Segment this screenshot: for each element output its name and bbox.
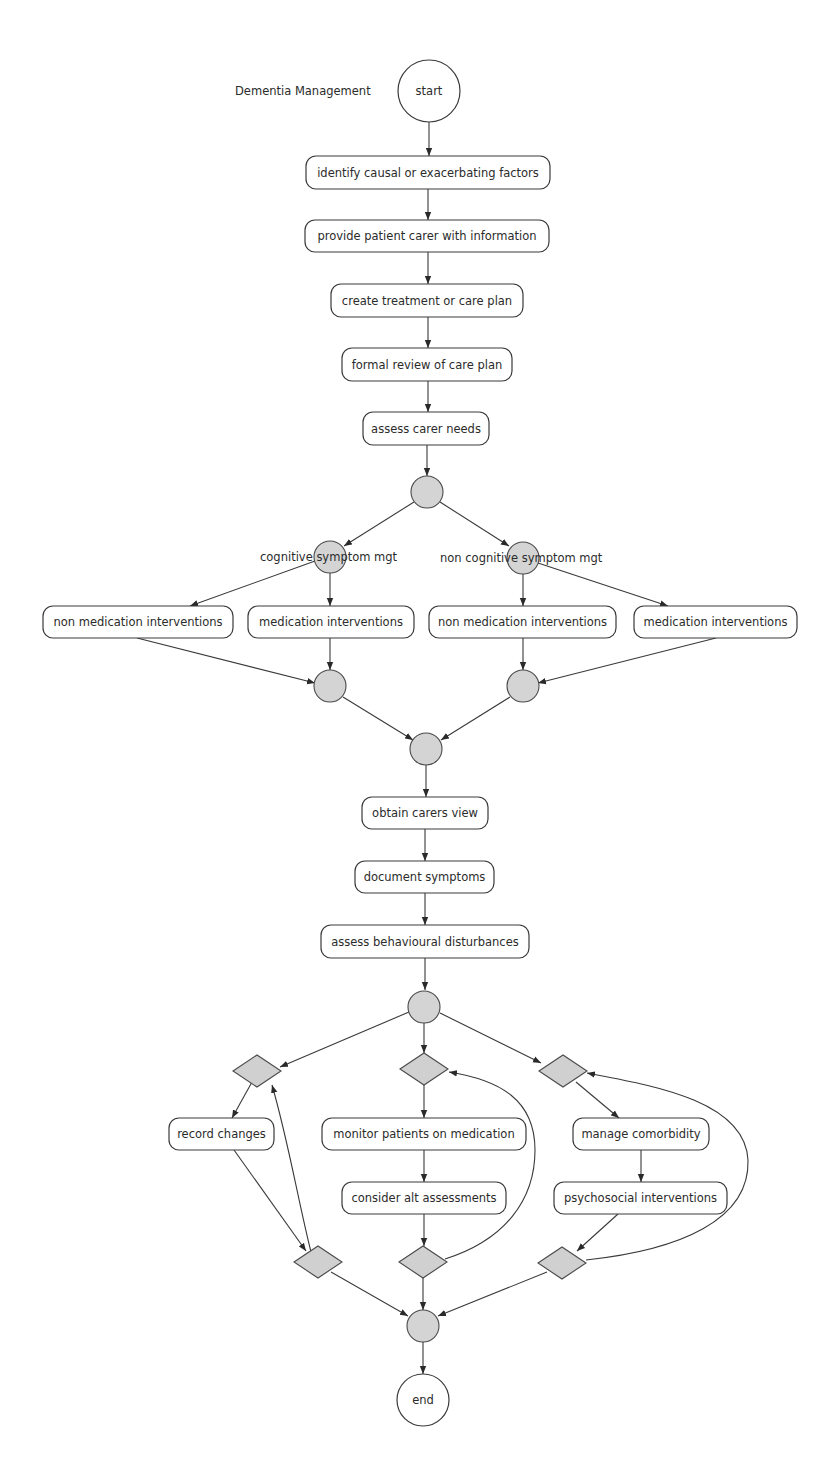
activity-provide-information: provide patient carer with information: [305, 220, 549, 252]
diagram-title: Dementia Management: [235, 84, 371, 98]
edge-fork2-dleft: [280, 1012, 409, 1067]
edge-dright2-dright-loop: [586, 1073, 748, 1260]
edge-noncog-med: [538, 563, 668, 606]
activity-assess-carer-needs: assess carer needs: [363, 412, 489, 445]
fork2-gateway: [408, 991, 440, 1023]
activity-create-care-plan: create treatment or care plan: [331, 284, 523, 317]
edge-nonmed-cogjoin: [137, 638, 315, 683]
activity-label: non medication interventions: [438, 615, 607, 629]
edge-dright2-end-gate: [438, 1272, 547, 1316]
activity-identify-factors: identify causal or exacerbating factors: [306, 156, 550, 189]
edge-dright-manage: [576, 1082, 619, 1118]
edge-cogjoin-join: [343, 697, 413, 740]
activity-label: non medication interventions: [53, 615, 222, 629]
decision-left-top: [233, 1055, 281, 1087]
noncognitive-branch-label: non cognitive symptom mgt: [440, 551, 603, 565]
activity-label: assess behavioural disturbances: [331, 935, 518, 949]
decision-right-top: [539, 1055, 587, 1087]
cognitive-join-gateway: [314, 670, 346, 702]
end-node: end: [397, 1374, 449, 1426]
cognitive-branch-label: cognitive symptom mgt: [260, 550, 398, 564]
activity-label: assess carer needs: [371, 422, 481, 436]
fork-gateway: [411, 476, 443, 508]
activity-assess-behavioural-disturbances: assess behavioural disturbances: [321, 925, 529, 958]
activity-monitor-patients: monitor patients on medication: [322, 1118, 526, 1150]
decision-right-bottom: [538, 1247, 586, 1279]
end-join-gateway: [407, 1310, 439, 1342]
activity-label: formal review of care plan: [352, 358, 503, 372]
activity-noncognitive-medication: medication interventions: [634, 606, 797, 638]
activity-label: medication interventions: [259, 615, 403, 629]
activity-cognitive-non-medication: non medication interventions: [43, 606, 233, 638]
edge-fork-noncognitive: [440, 502, 509, 546]
edge-cog-nonmed: [190, 561, 315, 606]
edge-psycho-dright2: [577, 1214, 618, 1251]
edge-dmid2-dmid-loop: [445, 1072, 535, 1259]
activity-label: psychosocial interventions: [564, 1191, 717, 1205]
activity-label: create treatment or care plan: [342, 294, 512, 308]
activity-obtain-carers-view: obtain carers view: [362, 797, 488, 829]
start-node: start: [398, 60, 460, 122]
activity-label: document symptoms: [364, 870, 486, 884]
activity-label: consider alt assessments: [351, 1191, 496, 1205]
start-label: start: [416, 84, 443, 98]
activity-label: provide patient carer with information: [317, 229, 536, 243]
activity-psychosocial-interventions: psychosocial interventions: [554, 1182, 727, 1214]
activity-label: monitor patients on medication: [333, 1127, 514, 1141]
activity-label: manage comorbidity: [581, 1127, 700, 1141]
activity-noncognitive-non-medication: non medication interventions: [429, 606, 616, 638]
activity-formal-review: formal review of care plan: [342, 348, 512, 381]
decision-left-bottom: [294, 1246, 342, 1278]
activity-document-symptoms: document symptoms: [355, 861, 494, 893]
activity-diagram: Dementia Management: [0, 0, 829, 1471]
edge-med-noncogjoin: [538, 638, 716, 683]
activity-label: record changes: [177, 1127, 266, 1141]
activity-consider-alt-assessments: consider alt assessments: [342, 1182, 506, 1214]
decision-middle-top: [400, 1053, 448, 1085]
activity-manage-comorbidity: manage comorbidity: [573, 1118, 709, 1150]
edge-dleft-record: [232, 1082, 252, 1118]
edge-dleft2-end-gate: [331, 1272, 408, 1316]
end-label: end: [412, 1393, 434, 1407]
activity-label: medication interventions: [644, 615, 788, 629]
join-gateway: [410, 733, 442, 765]
activity-label: obtain carers view: [372, 806, 478, 820]
activity-record-changes: record changes: [169, 1118, 274, 1150]
edge-fork-cognitive: [344, 502, 414, 546]
edge-noncogjoin-join: [441, 697, 510, 740]
activity-label: identify causal or exacerbating factors: [317, 166, 539, 180]
activity-cognitive-medication: medication interventions: [248, 606, 414, 638]
edge-fork2-dright: [440, 1013, 541, 1063]
edge-record-dleft2: [234, 1150, 306, 1251]
edge-dleft2-dleft-loop: [272, 1085, 311, 1252]
decision-middle-bottom: [399, 1246, 447, 1278]
noncognitive-join-gateway: [507, 670, 539, 702]
